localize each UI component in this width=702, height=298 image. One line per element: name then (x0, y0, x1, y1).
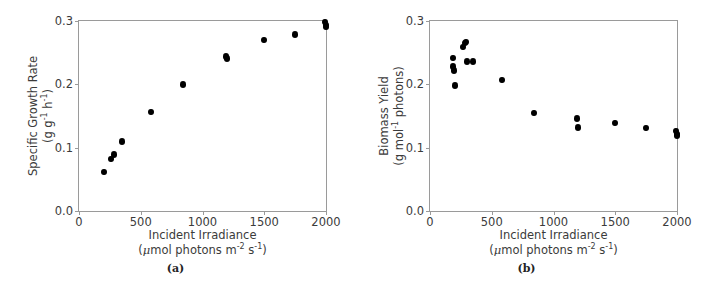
panel-a-plot-frame: 05001000150020000.00.10.20.3 (78, 20, 327, 212)
panel-b-y-tick-label: 0.0 (406, 205, 424, 218)
data-point (612, 120, 618, 126)
data-point (224, 55, 230, 61)
data-point (452, 82, 458, 88)
data-point (451, 67, 457, 73)
data-point (531, 110, 537, 116)
data-point (323, 24, 329, 30)
data-point (574, 115, 580, 121)
panel-a-x-axis-label-line1: Incident Irradiance (149, 228, 257, 242)
x-unit-a-b: mol photons m (501, 243, 587, 257)
data-point (261, 37, 267, 43)
data-point (148, 109, 154, 115)
y-unit-mid-b: photons (392, 71, 406, 121)
panel-b-y-tick (426, 211, 430, 212)
x-unit-sup1-a: -2 (237, 242, 245, 251)
panel-a-caption: (a) (0, 262, 351, 275)
x-unit-b-a: s (245, 243, 255, 257)
panel-a-y-tick-label: 0.2 (55, 78, 73, 91)
panel-b-x-axis-label: Incident Irradiance (μmol photons m-2 s-… (429, 228, 678, 258)
data-point (470, 58, 476, 64)
x-unit-b-b: s (596, 243, 606, 257)
panel-b-y-axis-label: Biomass Yield (g mol-1 photons) (377, 20, 407, 212)
panel-b-plot-area (430, 21, 677, 211)
data-point (674, 132, 680, 138)
data-point (464, 58, 470, 64)
y-unit-pre-a: (g g (41, 120, 55, 143)
data-point (499, 77, 505, 83)
x-unit-post-b: ) (613, 243, 618, 257)
data-point (119, 138, 125, 144)
data-point (643, 125, 649, 131)
panel-b-y-tick-label: 0.2 (406, 78, 424, 91)
panel-a-y-axis-label: Specific Growth Rate (g g-1 h-1) (26, 20, 56, 212)
data-point (101, 169, 107, 175)
panel-a: Specific Growth Rate (g g-1 h-1) 0500100… (0, 0, 351, 298)
x-unit-a-a: mol photons m (150, 243, 236, 257)
y-unit-mid-a: h (41, 101, 55, 112)
y-unit-post-a: ) (41, 89, 55, 94)
panel-a-y-tick (75, 148, 79, 149)
panel-b: Biomass Yield (g mol-1 photons) 05001000… (351, 0, 702, 298)
panel-a-x-axis-label-line2: (μmol photons m-2 s-1) (78, 243, 327, 258)
panel-a-y-tick-label: 0.1 (55, 141, 73, 154)
panel-b-y-axis-label-line1: Biomass Yield (377, 76, 391, 155)
panel-a-y-axis-label-line1: Specific Growth Rate (26, 56, 40, 176)
panel-b-y-tick-label: 0.1 (406, 141, 424, 154)
y-unit-sup1-a: -1 (40, 112, 49, 120)
data-point (292, 31, 298, 37)
y-unit-pre-b: (g mol (392, 129, 406, 166)
panel-a-y-axis-label-line2: (g g-1 h-1) (41, 20, 56, 212)
panel-b-x-axis-label-line1: Incident Irradiance (500, 228, 608, 242)
panel-b-y-tick (426, 21, 430, 22)
figure-container: Specific Growth Rate (g g-1 h-1) 0500100… (0, 0, 702, 298)
data-point (463, 39, 469, 45)
data-point (575, 124, 581, 130)
data-point (111, 151, 117, 157)
panel-b-caption: (b) (351, 262, 702, 275)
panel-a-y-tick (75, 211, 79, 212)
data-point (450, 55, 456, 61)
panel-a-y-tick (75, 84, 79, 85)
panel-a-y-tick-label: 0.3 (55, 15, 73, 28)
x-unit-post-a: ) (262, 243, 267, 257)
y-unit-sup2-a: -1 (40, 93, 49, 101)
panel-a-y-tick-label: 0.0 (55, 205, 73, 218)
data-point (180, 81, 186, 87)
x-unit-sup1-b: -2 (588, 242, 596, 251)
panel-a-plot-area (79, 21, 326, 211)
panel-a-x-axis-label: Incident Irradiance (μmol photons m-2 s-… (78, 228, 327, 258)
panel-b-y-axis-label-line2: (g mol-1 photons) (392, 20, 407, 212)
panel-b-y-tick (426, 84, 430, 85)
panel-b-y-tick-label: 0.3 (406, 15, 424, 28)
panel-b-x-axis-label-line2: (μmol photons m-2 s-1) (429, 243, 678, 258)
panel-b-y-tick (426, 148, 430, 149)
y-unit-post-b: ) (392, 66, 406, 71)
y-unit-sup1-b: -1 (391, 121, 400, 129)
panel-b-plot-frame: 05001000150020000.00.10.20.3 (429, 20, 678, 212)
panel-a-y-tick (75, 21, 79, 22)
